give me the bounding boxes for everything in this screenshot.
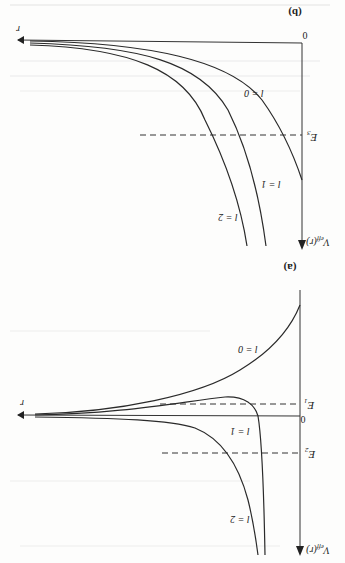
- panel-a: (a) 0 r E1 E2 Veff(r) l = 0 l = 1 l = 2: [18, 261, 330, 556]
- curve-label-a-l0: l = 0: [238, 344, 258, 355]
- panel-b: (b) 0 r E3 Veff(r) l = 0 l = 1 l = 2: [16, 6, 330, 250]
- curve-label-b-l0: l = 0: [244, 88, 264, 99]
- veff-label-b: Veff(r): [306, 235, 330, 248]
- curve-label-a-l2: l = 2: [230, 514, 250, 525]
- curve-label-b-l1: l = 1: [261, 179, 281, 190]
- r-label-b: r: [16, 24, 20, 35]
- e1-label: E1: [304, 397, 315, 412]
- curve-label-b-l2: l = 2: [218, 212, 238, 223]
- figure-svg: (b) 0 r E3 Veff(r) l = 0 l = 1 l = 2 (a)…: [0, 0, 345, 563]
- panel-b-label: (b): [288, 6, 302, 19]
- e3-label: E3: [306, 129, 318, 144]
- veff-label-a: Veff(r): [306, 543, 330, 556]
- panel-a-label: (a): [283, 261, 296, 274]
- origin-label-b: 0: [303, 30, 308, 41]
- e2-label: E2: [304, 446, 316, 461]
- origin-label-a: 0: [301, 414, 306, 425]
- veff-arrow-icon-b: [298, 240, 306, 250]
- curve-a-l2: [35, 417, 258, 555]
- r-label-a: r: [20, 398, 24, 409]
- veff-arrow-icon-a: [296, 546, 304, 556]
- figure-page: (b) 0 r E3 Veff(r) l = 0 l = 1 l = 2 (a)…: [0, 0, 345, 563]
- curve-label-a-l1: l = 1: [230, 426, 250, 437]
- bleed-through-text: [10, 4, 330, 547]
- curve-a-l0: [35, 305, 300, 414]
